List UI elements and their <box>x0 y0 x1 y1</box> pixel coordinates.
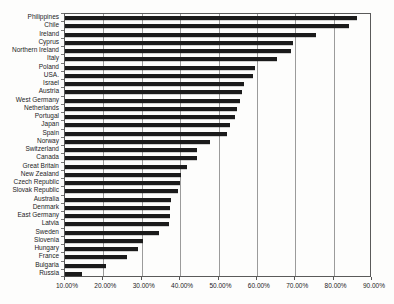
y-axis-label: Slovak Republic <box>0 186 59 194</box>
y-axis-tick <box>61 162 64 163</box>
y-axis-label: Latvia <box>0 219 59 227</box>
y-axis-tick <box>61 96 64 97</box>
bar-hungary <box>65 247 138 251</box>
bar-canada <box>65 156 197 160</box>
y-axis-label: Philippines <box>0 13 59 21</box>
y-axis-label: Netherlands <box>0 104 59 112</box>
y-axis-tick <box>61 30 64 31</box>
y-axis-label: West Germany <box>0 96 59 104</box>
y-axis-tick <box>61 87 64 88</box>
y-axis-label: Spain <box>0 129 59 137</box>
x-axis-label: 90.00% <box>356 282 392 290</box>
bar-japan <box>65 123 230 127</box>
y-axis-label: Bulgaria <box>0 261 59 269</box>
bar-spain <box>65 132 227 136</box>
bar-chart-figure: PhilippinesChileIrelandCyprusNorthern Ir… <box>0 0 394 304</box>
y-axis-tick <box>61 195 64 196</box>
y-axis-label: Israel <box>0 79 59 87</box>
x-axis-tick <box>294 277 295 280</box>
y-axis-tick <box>61 219 64 220</box>
bar-cyprus <box>65 41 293 45</box>
x-axis-tick <box>256 277 257 280</box>
y-axis-tick <box>61 79 64 80</box>
bar-philippines <box>65 16 357 20</box>
bar-chile <box>65 24 349 28</box>
y-axis-label: Northern Ireland <box>0 46 59 54</box>
gridline <box>334 14 335 276</box>
x-axis-tick <box>141 277 142 280</box>
y-axis-tick <box>61 46 64 47</box>
gridline <box>180 14 181 276</box>
y-axis-tick <box>61 38 64 39</box>
y-axis-tick <box>61 71 64 72</box>
gridline <box>142 14 143 276</box>
x-axis-label: 10.00% <box>49 282 85 290</box>
y-axis-tick <box>61 252 64 253</box>
bar-poland <box>65 66 255 70</box>
x-axis-label: 80.00% <box>318 282 354 290</box>
bar-israel <box>65 82 244 86</box>
y-axis-label: Czech Republic <box>0 178 59 186</box>
bar-slovenia <box>65 239 143 243</box>
y-axis-tick <box>61 21 64 22</box>
y-axis-tick <box>61 120 64 121</box>
x-axis-label: 30.00% <box>126 282 162 290</box>
bar-east-germany <box>65 214 170 218</box>
x-axis-tick <box>333 277 334 280</box>
y-axis-tick <box>61 244 64 245</box>
y-axis-label: Austria <box>0 87 59 95</box>
y-axis-tick <box>61 211 64 212</box>
gridline <box>257 14 258 276</box>
x-axis-tick <box>371 277 372 280</box>
y-axis-label: USA. <box>0 71 59 79</box>
bar-austria <box>65 90 242 94</box>
bar-latvia <box>65 222 169 226</box>
y-axis-tick <box>61 203 64 204</box>
y-axis-label: Australia <box>0 195 59 203</box>
y-axis-label: Hungary <box>0 244 59 252</box>
y-axis-tick <box>61 228 64 229</box>
y-axis-label: Norway <box>0 137 59 145</box>
y-axis-tick <box>61 276 64 277</box>
y-axis-tick <box>61 269 64 270</box>
y-axis-label: New Zealand <box>0 170 59 178</box>
y-axis-tick <box>61 261 64 262</box>
bar-usa <box>65 74 253 78</box>
y-axis-label: Great Britain <box>0 162 59 170</box>
bar-ireland <box>65 33 316 37</box>
y-axis-label: Canada <box>0 153 59 161</box>
bar-switzerland <box>65 148 197 152</box>
x-axis-label: 20.00% <box>87 282 123 290</box>
bar-netherlands <box>65 107 237 111</box>
bar-great-britain <box>65 165 187 169</box>
bar-russia <box>65 272 82 276</box>
y-axis-tick <box>61 129 64 130</box>
y-axis-label: Chile <box>0 21 59 29</box>
y-axis-tick <box>61 145 64 146</box>
x-axis-label: 40.00% <box>164 282 200 290</box>
y-axis-tick <box>61 186 64 187</box>
y-axis-tick <box>61 178 64 179</box>
bar-france <box>65 255 127 259</box>
bar-west-germany <box>65 99 240 103</box>
x-axis-tick <box>64 277 65 280</box>
y-axis-label: Poland <box>0 63 59 71</box>
gridline <box>103 14 104 276</box>
y-axis-tick <box>61 137 64 138</box>
y-axis-tick <box>61 54 64 55</box>
y-axis-label: Denmark <box>0 203 59 211</box>
x-axis-label: 50.00% <box>203 282 239 290</box>
bar-northern-ireland <box>65 49 291 53</box>
gridline <box>219 14 220 276</box>
bar-czech-republic <box>65 181 180 185</box>
bar-slovak-republic <box>65 189 178 193</box>
y-axis-label: Portugal <box>0 112 59 120</box>
y-axis-label: France <box>0 252 59 260</box>
y-axis-tick <box>61 104 64 105</box>
x-axis-label: 60.00% <box>241 282 277 290</box>
y-axis-tick <box>61 112 64 113</box>
bar-sweden <box>65 231 159 235</box>
y-axis-label: Italy <box>0 54 59 62</box>
y-axis-label: Japan <box>0 120 59 128</box>
bar-italy <box>65 57 277 61</box>
